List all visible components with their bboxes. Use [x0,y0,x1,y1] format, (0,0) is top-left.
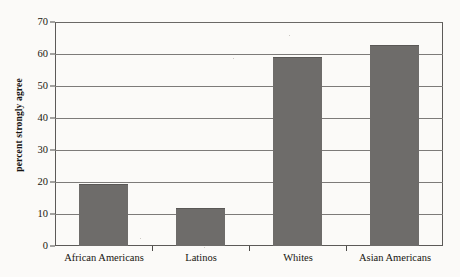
y-tick-label: 60 [26,49,48,60]
y-tick-label: 40 [26,113,48,124]
y-tick-label: 0 [26,241,48,252]
x-tick-mark [152,246,153,251]
scan-speckle [140,238,141,239]
x-tick-mark [346,246,347,251]
y-axis-title: percent strongly agree [6,0,32,250]
scan-speckle [204,247,205,248]
y-tick-label: 70 [26,17,48,28]
y-tick-label: 50 [26,81,48,92]
y-tick-label: 20 [26,177,48,188]
x-axis-category-label: African Americans [64,252,144,263]
x-tick-mark [249,246,250,251]
bar-chart: percent strongly agree 010203040506070 A… [0,0,460,277]
bar [273,57,322,246]
scan-speckle [233,58,234,59]
y-tick-label: 30 [26,145,48,156]
bar [370,45,419,246]
bar-series [56,23,442,246]
y-axis-title-text: percent strongly agree [14,78,24,172]
scan-speckle [289,35,290,36]
bar [79,184,128,246]
bar [176,208,225,246]
x-axis-category-label: Latinos [185,252,217,263]
y-tick-label: 10 [26,209,48,220]
x-axis-category-label: Whites [283,252,313,263]
x-axis-category-label: Asian Americans [359,252,431,263]
